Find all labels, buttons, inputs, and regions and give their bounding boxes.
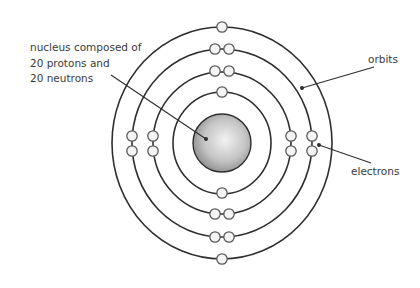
electrons-label: electrons [351,165,399,177]
nucleus [193,114,251,172]
electron [217,87,227,97]
orbits-label: orbits [368,53,398,65]
electrons-leader [319,145,371,163]
atom-diagram: nucleus composed of 20 protons and 20 ne… [0,0,420,288]
electrons-leader-dot [318,144,321,147]
electron [286,146,296,156]
electron [217,188,227,198]
electron [127,131,137,141]
electron [148,131,158,141]
electron [217,22,227,32]
electron [210,232,220,242]
electron [224,232,234,242]
electron [210,44,220,54]
electron [210,209,220,219]
electron [286,131,296,141]
electron [307,131,317,141]
electron [127,146,137,156]
electron [307,146,317,156]
orbits-leader-dot [301,87,304,90]
electron [224,66,234,76]
nucleus-label-line-2: 20 protons and [30,57,110,69]
electron [148,146,158,156]
electron [210,66,220,76]
electron [224,44,234,54]
nucleus-label-line-3: 20 neutrons [30,72,93,84]
nucleus-leader [111,75,206,139]
nucleus-label-line-1: nucleus composed of [30,41,142,53]
nucleus-leader-dot [205,138,208,141]
electron [224,209,234,219]
electron [217,254,227,264]
